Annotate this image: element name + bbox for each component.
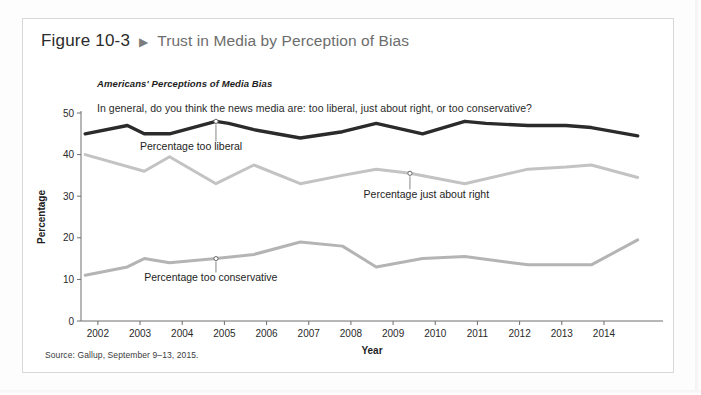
y-tick-label: 0: [68, 316, 74, 327]
y-tick-label: 10: [63, 274, 75, 285]
x-tick-label: 2006: [255, 328, 278, 339]
x-tick-label: 2010: [424, 328, 447, 339]
figure-card: Figure 10-3 ▶ Trust in Media by Percepti…: [22, 18, 674, 373]
x-tick-label: 2013: [551, 328, 574, 339]
plot-area: 0102030405020022003200420052006200720082…: [23, 19, 675, 374]
x-tick-label: 2007: [298, 328, 321, 339]
annotation-label-1: Percentage just about right: [364, 188, 490, 200]
x-tick-label: 2002: [87, 328, 110, 339]
source-note: Source: Gallup, September 9–13, 2015.: [45, 350, 199, 360]
series-line-0: [85, 121, 637, 138]
y-tick-label: 50: [63, 108, 75, 119]
x-axis-title: Year: [361, 345, 382, 356]
y-axis-title: Percentage: [36, 190, 47, 244]
y-tick-label: 30: [63, 191, 75, 202]
annotation-marker-0: [214, 119, 218, 123]
x-tick-label: 2009: [382, 328, 405, 339]
series-line-2: [85, 240, 637, 275]
page-background: Figure 10-3 ▶ Trust in Media by Percepti…: [0, 0, 701, 395]
x-tick-label: 2004: [171, 328, 194, 339]
line-chart-svg: 0102030405020022003200420052006200720082…: [23, 19, 675, 374]
x-tick-label: 2014: [593, 328, 616, 339]
x-tick-label: 2012: [508, 328, 531, 339]
page-edge-shadow-right: [695, 0, 701, 395]
x-tick-label: 2008: [340, 328, 363, 339]
annotation-label-0: Percentage too liberal: [140, 140, 242, 152]
x-tick-label: 2011: [467, 328, 489, 339]
annotation-marker-2: [214, 257, 218, 261]
annotation-label-2: Percentage too conservative: [144, 271, 277, 283]
y-tick-label: 20: [63, 232, 75, 243]
annotation-marker-1: [408, 171, 412, 175]
x-tick-label: 2005: [213, 328, 236, 339]
x-tick-label: 2003: [129, 328, 152, 339]
y-tick-label: 40: [63, 149, 75, 160]
page-edge-shadow-bottom: [0, 390, 701, 395]
series-line-1: [85, 155, 637, 184]
